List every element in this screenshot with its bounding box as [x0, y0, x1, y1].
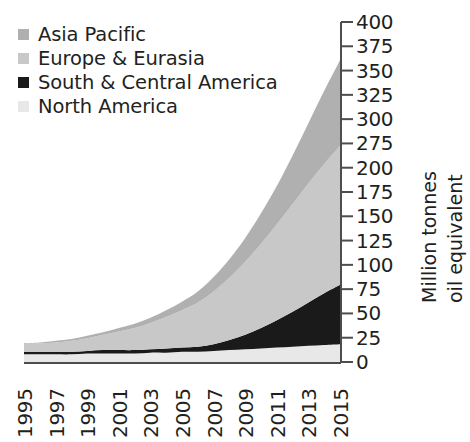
y-axis-title: Million tonnes oil equivalent [398, 88, 468, 318]
x-axis-tick-label: 2015 [331, 388, 351, 438]
x-axis-tick-label: 1999 [78, 388, 98, 438]
x-axis-tick-label: 1995 [15, 388, 35, 438]
y-axis-tick-label: 275 [356, 133, 393, 153]
y-axis-title-line-1: Million tonnes [420, 171, 439, 303]
x-axis-tick-label: 2007 [205, 388, 225, 438]
y-axis-tick-label: 350 [356, 61, 393, 81]
y-axis-tick-label: 175 [356, 182, 393, 202]
x-axis-tick-label: 2001 [110, 388, 130, 438]
y-axis-tick-label: 400 [356, 12, 393, 32]
stacked-area-chart: Asia Pacific Europe & Eurasia South & Ce… [0, 0, 470, 442]
y-axis-tick-label: 150 [356, 206, 393, 226]
x-axis-tick-labels: 1995199719992001200320052007200920112013… [0, 368, 360, 442]
y-axis-title-line-2: oil equivalent [446, 174, 465, 303]
x-axis-tick-label: 1997 [47, 388, 67, 438]
x-axis-tick-label: 2009 [236, 388, 256, 438]
y-axis-tick-label: 300 [356, 109, 393, 129]
x-axis-tick-label: 2011 [268, 388, 288, 438]
y-axis-tick-label: 25 [356, 328, 381, 348]
y-axis-tick-label: 125 [356, 231, 393, 251]
y-axis-tick-label: 325 [356, 85, 393, 105]
y-axis-tick-label: 375 [356, 36, 393, 56]
y-axis-tick-label: 100 [356, 255, 393, 275]
y-axis-tick-label: 200 [356, 158, 393, 178]
x-axis-tick-label: 2013 [299, 388, 319, 438]
x-axis-tick-label: 2003 [141, 388, 161, 438]
x-axis-tick-label: 2005 [173, 388, 193, 438]
y-axis-tick-label: 50 [356, 303, 381, 323]
stacked-areas [24, 60, 340, 362]
y-axis-tick-labels: 4003753503253002752001751501251007550250 [356, 0, 404, 442]
y-axis-tick-label: 75 [356, 279, 381, 299]
